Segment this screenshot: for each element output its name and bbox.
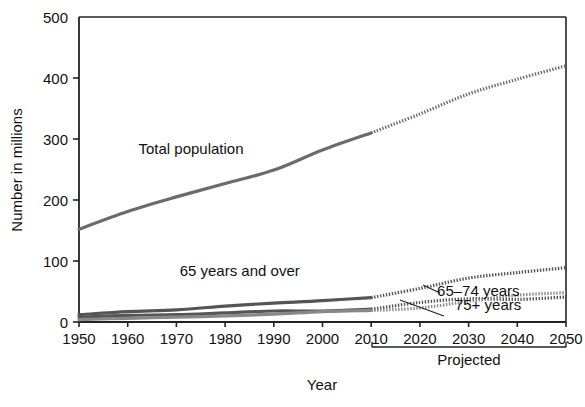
y-tick-label: 500 (43, 9, 68, 26)
y-axis: 0100200300400500 (43, 9, 79, 331)
chart-canvas: 0100200300400500 19501960197019801990200… (0, 0, 585, 407)
y-tick-label: 0 (60, 314, 68, 331)
x-axis: 1950196019701980199020002010202020302040… (62, 322, 582, 347)
x-axis-title: Year (307, 376, 337, 393)
x-tick-label: 1950 (62, 330, 95, 347)
series-line-projected (371, 66, 566, 133)
series-annotation: Total population (138, 140, 243, 157)
x-tick-label: 1970 (160, 330, 193, 347)
projected-label: Projected (437, 351, 500, 368)
x-tick-label: 1960 (111, 330, 144, 347)
series-annotation: 65 years and over (180, 262, 300, 279)
y-axis-title: Number in millions (8, 108, 25, 231)
x-tick-label: 2030 (452, 330, 485, 347)
x-tick-label: 1980 (208, 330, 241, 347)
y-tick-label: 200 (43, 192, 68, 209)
x-tick-label: 2040 (501, 330, 534, 347)
x-tick-label: 2020 (403, 330, 436, 347)
y-tick-label: 300 (43, 131, 68, 148)
x-tick-label: 1990 (257, 330, 290, 347)
x-tick-label: 2010 (355, 330, 388, 347)
x-tick-label: 2000 (306, 330, 339, 347)
annotation-layer: Total population65 years and over65–74 y… (138, 140, 521, 313)
y-tick-label: 100 (43, 253, 68, 270)
series-annotation: 75+ years (455, 296, 521, 313)
population-line-chart: 0100200300400500 19501960197019801990200… (0, 0, 585, 407)
y-tick-label: 400 (43, 70, 68, 87)
